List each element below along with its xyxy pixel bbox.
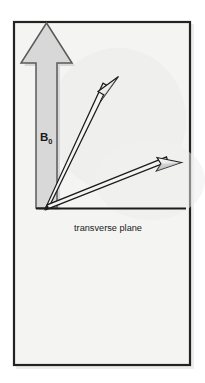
b0-label-subscript: 0 [48,137,52,146]
vector-origin-point [45,206,48,209]
diagram-canvas: B0 transverse plane [0,0,205,383]
figure-root: B0 transverse plane [0,0,205,383]
transverse-plane-label: transverse plane [74,223,142,233]
b0-label-text: B [40,131,48,143]
